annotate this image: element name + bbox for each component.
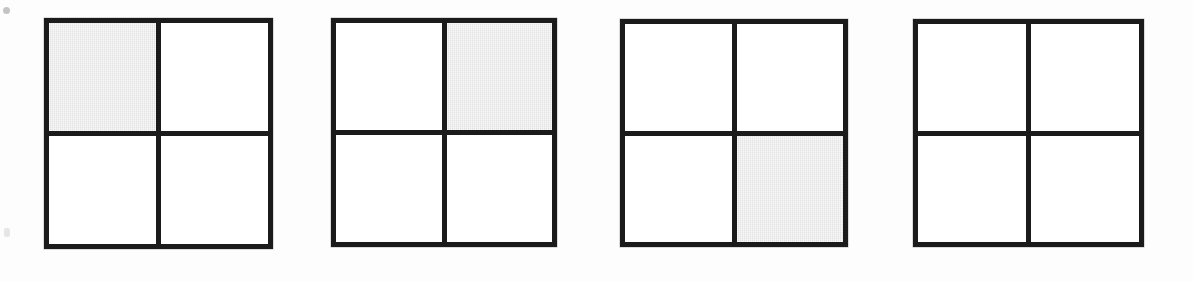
grid-3-cell-bottom-left[interactable]: [625, 136, 732, 243]
grid-figure-1[interactable]: [44, 18, 273, 249]
grid-2-cell-top-right[interactable]: [447, 23, 553, 130]
grid-4-cell-bottom-right[interactable]: [1031, 136, 1139, 243]
grid-4-cell-top-right[interactable]: [1031, 24, 1139, 131]
grid-3-cell-top-left[interactable]: [625, 24, 732, 131]
grid-2-cell-bottom-left[interactable]: [336, 135, 442, 242]
grid-1-cell-top-left[interactable]: [49, 23, 156, 131]
grid-1-cell-bottom-right[interactable]: [161, 136, 268, 244]
grid-figure-2[interactable]: [331, 18, 557, 247]
grid-4-cell-bottom-left[interactable]: [918, 136, 1026, 243]
grid-3-cell-top-right[interactable]: [737, 24, 844, 131]
grid-1-cell-top-right[interactable]: [161, 23, 268, 131]
grid-4-cell-top-left[interactable]: [918, 24, 1026, 131]
grid-2-cell-bottom-right[interactable]: [447, 135, 553, 242]
grid-2-cell-top-left[interactable]: [336, 23, 442, 130]
grid-1-cell-bottom-left[interactable]: [49, 136, 156, 244]
scan-speck-top-icon: [3, 7, 10, 14]
grid-figure-3[interactable]: [620, 19, 848, 247]
figure-canvas: [0, 0, 1193, 281]
grid-3-cell-bottom-right[interactable]: [737, 136, 844, 243]
grid-figure-4[interactable]: [913, 19, 1144, 247]
scan-speck-bottom-icon: [4, 228, 10, 237]
